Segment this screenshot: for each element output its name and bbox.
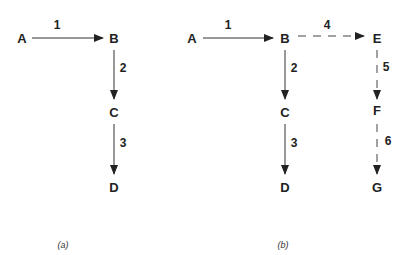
node-a: A <box>187 31 197 46</box>
edge-label-5: 5 <box>383 60 390 74</box>
node-b: B <box>280 31 289 46</box>
node-d: D <box>109 180 118 195</box>
node-g: G <box>372 180 382 195</box>
node-f: F <box>373 103 381 118</box>
edge-label-4: 4 <box>324 18 331 32</box>
node-c: C <box>280 105 290 120</box>
edge-label-3: 3 <box>120 136 127 150</box>
edge-label-3: 3 <box>291 136 298 150</box>
node-b: B <box>109 31 118 46</box>
edge-label-6: 6 <box>385 134 392 148</box>
panel-b: A B E C F D G 1 2 3 4 5 6 (b) <box>187 18 391 250</box>
caption-b: (b) <box>278 240 289 250</box>
edge-label-1: 1 <box>54 18 61 32</box>
edge-label-2: 2 <box>291 61 298 75</box>
node-a: A <box>17 31 27 46</box>
diagram-canvas: A B C D 1 2 3 (a) A B E C F D G 1 2 3 4 … <box>0 0 408 255</box>
node-d: D <box>280 180 289 195</box>
node-c: C <box>109 105 119 120</box>
panel-a: A B C D 1 2 3 (a) <box>17 18 126 250</box>
caption-a: (a) <box>58 240 69 250</box>
edge-label-1: 1 <box>225 18 232 32</box>
edge-label-2: 2 <box>120 61 127 75</box>
node-e: E <box>373 31 382 46</box>
